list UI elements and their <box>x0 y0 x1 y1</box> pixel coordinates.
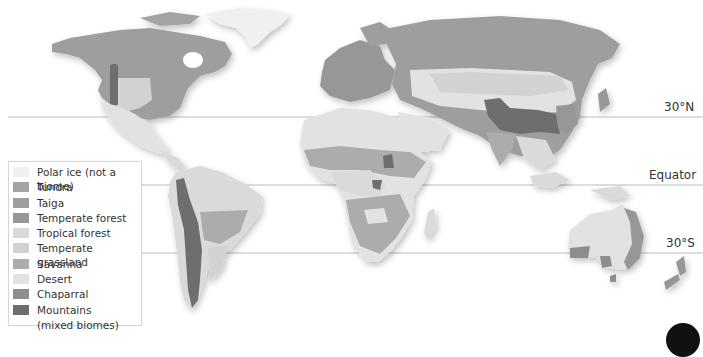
latitude-label-equator: Equator <box>649 168 696 182</box>
legend-label: Tropical forest <box>37 226 111 240</box>
swatch-tropical-forest <box>13 228 29 238</box>
legend-label: Temperate forest <box>37 211 126 225</box>
legend-item-tropical-forest: Tropical forest <box>13 226 141 241</box>
rocky-mountains <box>110 64 118 106</box>
legend-mountains-sublabel: (mixed biomes) <box>13 318 141 332</box>
legend-item-temperate-grassland: Temperate grassland <box>13 241 141 256</box>
legend-item-chaparral: Chaparral <box>13 287 141 302</box>
swatch-temperate-forest <box>13 213 29 223</box>
swatch-tundra <box>13 182 29 192</box>
latitude-label-30n: 30°N <box>664 100 694 114</box>
legend-label: Desert <box>37 272 72 286</box>
biome-legend: Polar ice (not a biome) Tundra Taiga Tem… <box>8 161 142 326</box>
swatch-savanna <box>13 259 29 269</box>
legend-label: Chaparral <box>37 287 88 301</box>
legend-label: Taiga <box>37 196 64 210</box>
legend-label: Savanna <box>37 257 83 271</box>
legend-item-polar-ice: Polar ice (not a biome) <box>13 165 141 180</box>
legend-item-taiga: Taiga <box>13 196 141 211</box>
latitude-label-30s: 30°S <box>666 236 695 250</box>
swatch-desert <box>13 274 29 284</box>
legend-item-desert: Desert <box>13 272 141 287</box>
legend-label: Mountains <box>37 303 91 317</box>
swatch-polar-ice <box>13 167 29 177</box>
india <box>486 132 516 166</box>
legend-item-temperate-forest: Temperate forest <box>13 211 141 226</box>
swatch-chaparral <box>13 289 29 299</box>
swatch-mountains <box>13 305 29 315</box>
legend-label: Tundra <box>37 180 73 194</box>
legend-item-mountains: Mountains <box>13 303 141 318</box>
europe <box>320 40 395 102</box>
swatch-taiga <box>13 198 29 208</box>
corner-badge <box>666 323 700 357</box>
swatch-temperate-grassland <box>13 243 29 253</box>
